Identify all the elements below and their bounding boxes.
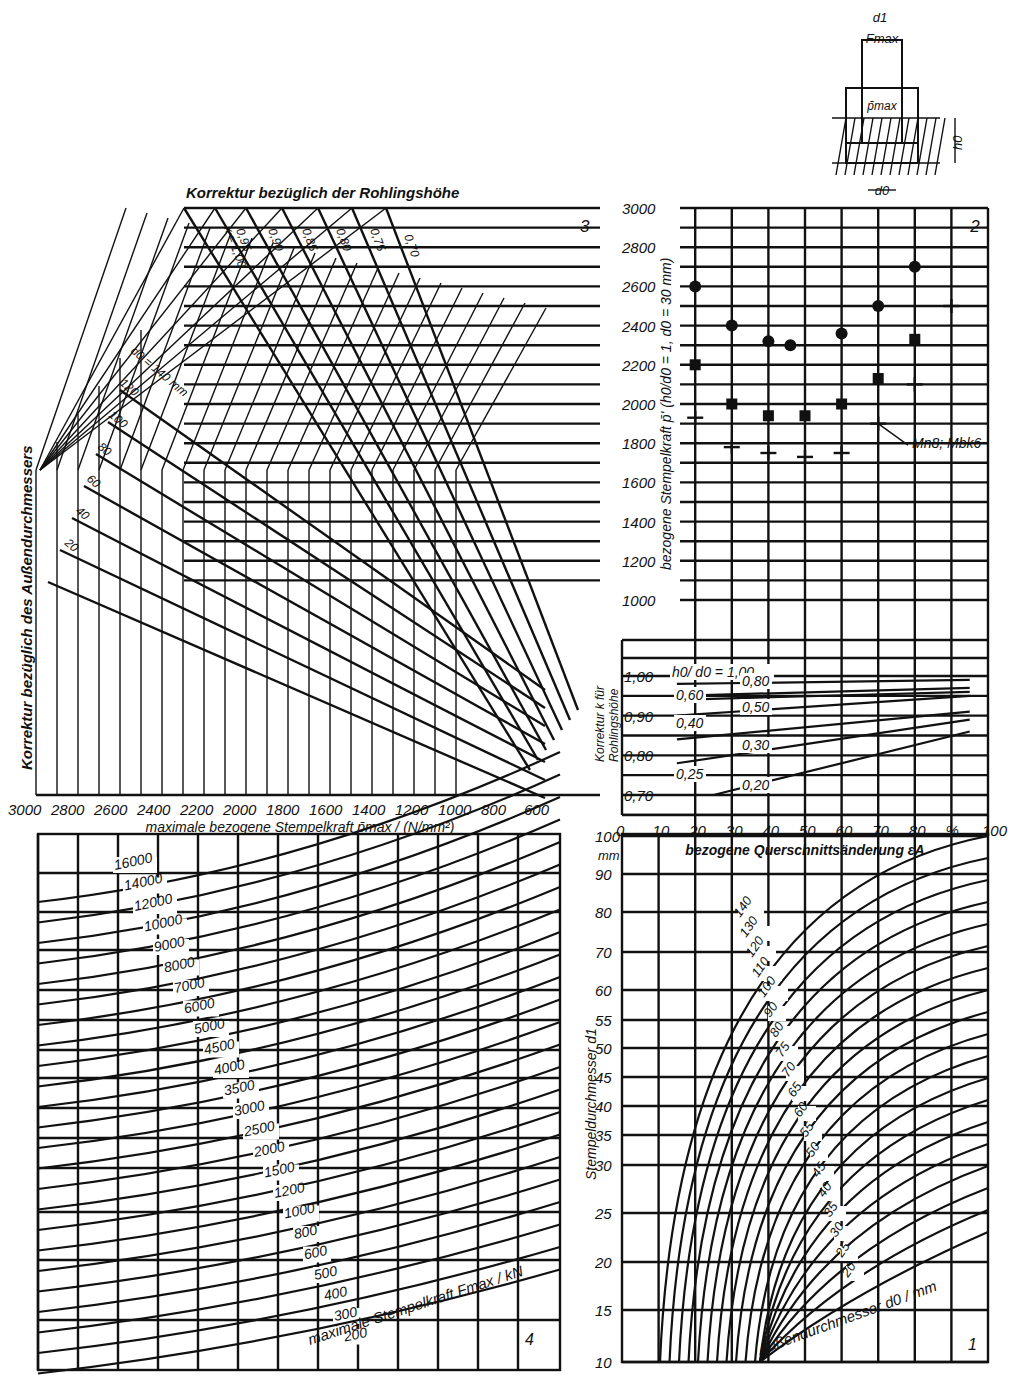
curve-label: 0,40 [676,715,703,731]
y-tick-label: 1000 [622,592,656,609]
x-tick-label: 2400 [136,801,171,818]
p-diag [204,248,294,470]
marker-square [690,359,701,370]
y-tick-label: 15 [595,1302,612,1319]
y-tick-label: 1200 [622,553,656,570]
marker-square [726,399,737,410]
d0-line [84,486,545,744]
curve-label: 0,25 [676,766,703,782]
y-tick-label: 2200 [621,357,656,374]
marker-circle [726,320,738,332]
p-diag [99,223,189,470]
marker-circle [872,300,884,312]
d0-line [108,422,545,708]
marker-square [873,373,884,384]
d0-line [60,550,545,780]
y-tick-label: 100 [595,828,621,845]
panel-number-3: 3 [580,217,590,236]
y-tick-label: 90 [595,866,612,883]
y-tick-label: 10 [595,1354,612,1371]
h0-label: h0 [950,135,965,150]
k-line [246,208,546,750]
y-tick-label: 2800 [621,239,656,256]
x-axis-label: maximale bezogene Stempelkraft p̄max / (… [146,819,455,835]
k-line [215,208,538,760]
y-tick-label: 25 [594,1205,612,1222]
x-tick-label: 1400 [352,801,386,818]
curve-label: 0,80 [742,673,769,689]
marker-square [800,410,811,421]
marker-circle [836,327,848,339]
marker-circle [689,280,701,292]
force-curve [38,1045,560,1169]
curve-label: 0,30 [742,737,769,753]
force-curve [38,1022,560,1148]
hatch-line [935,118,945,175]
x-tick-label: 2200 [179,801,214,818]
chart-1-punch-diameter: 1015202530354045505560708090100mmStempel… [583,828,988,1371]
marker-square [763,410,774,421]
diameter-curve [760,1078,988,1362]
y-tick-label: 80 [595,904,612,921]
side-title: Korrektur bezüglich des Außendurchmesser… [18,445,35,770]
y-axis-label: Rohlingshöhe [607,688,621,762]
corr-curve [677,680,970,684]
k-line [352,208,570,720]
diameter-curve [670,858,989,1362]
y-tick-label: 1800 [622,435,656,452]
punch [862,40,902,88]
force-curve [38,887,560,1025]
y-tick-label: 2000 [621,396,656,413]
p-diag [309,273,399,470]
chart-3-correction-grid: Korrektur bezüglich der Rohlingshöhe3k =… [8,184,600,835]
x-tick-label: 2000 [222,801,257,818]
y-axis-label: Stempeldurchmesser d1 [583,1028,599,1180]
annotation-label: Mn8; Mbk6 [912,435,981,451]
x-tick-label: 1000 [438,801,472,818]
chart-2b-height-correction: 1,000,900,800,70Korrektur k fürRohlingsh… [593,640,1008,858]
chart-4-force-curves: 1600014000120001000090008000700060005000… [38,752,560,1374]
x-tick-label: 2800 [50,801,85,818]
y-tick-label: 60 [595,982,612,999]
fmax-label: Fmax [866,31,899,46]
y-tick-label: 3000 [622,200,656,217]
y-tick-label: 1400 [622,514,656,531]
d1-label: d1 [873,10,887,25]
y-tick-label: 70 [595,944,612,961]
annotation-leader [878,424,908,446]
diameter-curve [760,1100,988,1362]
punch-schematic: d1Fmaxp̄maxh0d0 [832,10,965,198]
panel-number-1: 1 [968,1336,977,1353]
y-tick-label: 55 [595,1012,612,1029]
diameter-curve [708,946,989,1362]
p-diag [57,213,147,470]
p-diag [183,243,273,470]
curve-param-label: Außendurchmesser d0 / mm [754,1277,939,1358]
d0-label: d0 [875,183,890,198]
panel-number-2: 2 [969,217,980,236]
nomogram: d1Fmaxp̄maxh0d0 Korrektur bezüglich der … [0,0,1028,1386]
y-axis-label: Korrektur k für [593,685,607,762]
force-curve [38,1247,560,1353]
x-tick-label: 3000 [8,801,42,818]
p-diag [162,238,252,470]
hatch-line [836,118,846,175]
y-tick-label: 1,00 [624,668,654,685]
y-tick-label: 1600 [622,474,656,491]
curve-label: 0,20 [742,777,769,793]
pmax-label: p̄max [866,99,897,113]
marker-circle [784,339,796,351]
marker-square [836,399,847,410]
y-tick-label: 0,70 [624,787,654,804]
k-back-line [40,208,215,470]
p-diag [456,308,546,470]
y-tick-label: 2400 [621,318,656,335]
x-tick-label: 1800 [266,801,300,818]
marker-circle [762,335,774,347]
force-curve [38,910,560,1046]
curve-label: 0,50 [742,699,769,715]
y-unit: mm [598,848,620,863]
y-axis-label: bezogene Stempelkraft p̄' (h0/d0 = 1, d0… [658,258,674,570]
marker-circle [909,261,921,273]
p-diag [141,233,231,470]
